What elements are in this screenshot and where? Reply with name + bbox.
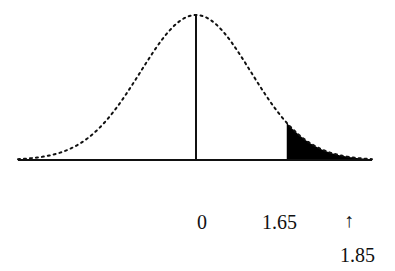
tick-label-critical-value: 1.65 [262, 212, 297, 232]
curve-layer [18, 15, 372, 160]
arrow-up-icon: ↑ [344, 210, 354, 230]
shaded-tail-region [287, 123, 372, 160]
tick-label-zero: 0 [197, 212, 207, 232]
observed-value-label: 1.85 [340, 245, 375, 265]
